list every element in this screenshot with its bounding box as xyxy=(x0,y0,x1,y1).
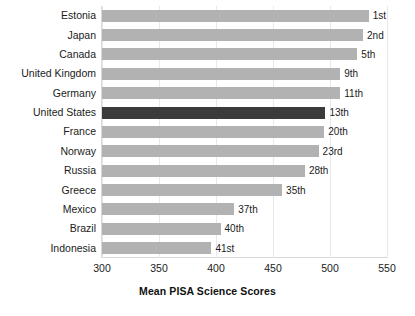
chart-row: Russia28th xyxy=(0,161,415,180)
bar[interactable] xyxy=(102,10,369,22)
chart-row: Mexico37th xyxy=(0,200,415,219)
bar[interactable] xyxy=(102,203,234,215)
chart-row: United Kingdom9th xyxy=(0,64,415,83)
bar-track: 2nd xyxy=(102,25,415,44)
chart-row: Norway23rd xyxy=(0,142,415,161)
x-axis-title: Mean PISA Science Scores xyxy=(0,285,415,297)
x-tick-label: 550 xyxy=(378,262,396,274)
x-tick-label: 500 xyxy=(321,262,339,274)
bar-track: 40th xyxy=(102,219,415,238)
bar[interactable] xyxy=(102,126,324,138)
x-axis: 300350400450500550 xyxy=(0,262,415,276)
rank-label: 9th xyxy=(344,68,358,79)
rank-label: 41st xyxy=(215,243,234,254)
rank-label: 5th xyxy=(361,49,375,60)
country-label: Indonesia xyxy=(0,243,96,254)
country-label: Norway xyxy=(0,146,96,157)
bar-track: 9th xyxy=(102,64,415,83)
rank-label: 35th xyxy=(286,185,305,196)
rank-label: 13th xyxy=(329,107,348,118)
chart-row: France20th xyxy=(0,122,415,141)
chart-row: Estonia1st xyxy=(0,6,415,25)
country-label: Brazil xyxy=(0,223,96,234)
bar[interactable] xyxy=(102,223,221,235)
chart-rows: Estonia1stJapan2ndCanada5thUnited Kingdo… xyxy=(0,6,415,258)
bar[interactable] xyxy=(102,48,357,60)
country-label: France xyxy=(0,126,96,137)
chart-row: Indonesia41st xyxy=(0,239,415,258)
x-tick-label: 300 xyxy=(93,262,111,274)
x-tick-label: 400 xyxy=(207,262,225,274)
chart-row: United States13th xyxy=(0,103,415,122)
bar-track: 37th xyxy=(102,200,415,219)
rank-label: 20th xyxy=(328,126,347,137)
bar-track: 1st xyxy=(102,6,415,25)
bar-track: 20th xyxy=(102,122,415,141)
bar[interactable] xyxy=(102,165,305,177)
bar[interactable] xyxy=(102,242,211,254)
rank-label: 2nd xyxy=(367,30,384,41)
country-label: Japan xyxy=(0,30,96,41)
x-tick-label: 350 xyxy=(150,262,168,274)
bar-track: 13th xyxy=(102,103,415,122)
chart-row: Germany11th xyxy=(0,84,415,103)
bar-track: 23rd xyxy=(102,142,415,161)
rank-label: 40th xyxy=(225,223,244,234)
bar-track: 41st xyxy=(102,239,415,258)
chart-row: Canada5th xyxy=(0,45,415,64)
chart-row: Japan2nd xyxy=(0,25,415,44)
rank-label: 28th xyxy=(309,165,328,176)
rank-label: 1st xyxy=(373,10,386,21)
rank-label: 23rd xyxy=(323,146,343,157)
country-label: Canada xyxy=(0,49,96,60)
bar-track: 11th xyxy=(102,84,415,103)
bar[interactable] xyxy=(102,29,363,41)
bar[interactable] xyxy=(102,184,282,196)
bar[interactable] xyxy=(102,68,340,80)
country-label: Estonia xyxy=(0,10,96,21)
country-label: Greece xyxy=(0,185,96,196)
country-label: United Kingdom xyxy=(0,68,96,79)
bar-track: 28th xyxy=(102,161,415,180)
country-label: United States xyxy=(0,107,96,118)
bar[interactable] xyxy=(102,87,340,99)
country-label: Russia xyxy=(0,165,96,176)
x-tick-label: 450 xyxy=(264,262,282,274)
bar-chart: Estonia1stJapan2ndCanada5thUnited Kingdo… xyxy=(0,0,415,316)
bar[interactable] xyxy=(102,145,319,157)
rank-label: 37th xyxy=(238,204,257,215)
country-label: Germany xyxy=(0,88,96,99)
bar-track: 5th xyxy=(102,45,415,64)
rank-label: 11th xyxy=(344,88,363,99)
bar-track: 35th xyxy=(102,180,415,199)
bar[interactable] xyxy=(102,107,325,119)
country-label: Mexico xyxy=(0,204,96,215)
chart-row: Brazil40th xyxy=(0,219,415,238)
chart-row: Greece35th xyxy=(0,180,415,199)
